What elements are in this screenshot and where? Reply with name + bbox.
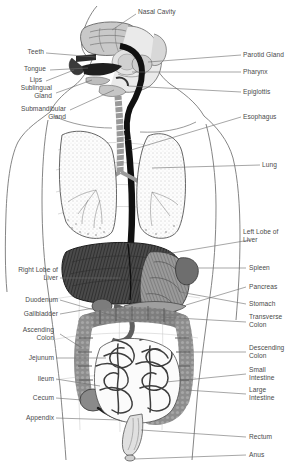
label-ileum: Ileum	[0, 375, 54, 383]
label-pharynx: Pharynx	[243, 68, 268, 76]
leader-sublingual-gland	[56, 80, 92, 93]
label-parotid-gland: Parotid Gland	[243, 51, 284, 59]
label-ascending-colon: Ascending Colon	[0, 326, 54, 341]
small-intestine-organ	[94, 338, 180, 423]
label-left-lobe-of-liver: Left Lobe of Liver	[243, 228, 278, 243]
spleen-organ	[176, 258, 199, 285]
leader-anus	[134, 455, 246, 459]
label-cecum: Cecum	[0, 394, 54, 402]
ascending-colon-organ	[82, 322, 87, 398]
label-lung: Lung	[262, 161, 277, 169]
label-pancreas: Pancreas	[249, 283, 277, 291]
label-teeth: Teeth	[0, 48, 44, 56]
label-large-intestine: Large Intestine	[249, 386, 274, 401]
label-sublingual-gland: Sublingual Gland	[0, 84, 52, 99]
label-stomach: Stomach	[249, 300, 275, 308]
label-epiglottis: Epiglottis	[243, 88, 270, 96]
leader-submandibular-gland	[70, 90, 114, 110]
leader-large-intestine	[186, 390, 246, 394]
label-transverse-colon: Transverse Colon	[249, 313, 282, 328]
leader-stomach	[180, 292, 246, 304]
label-descending-colon: Descending Colon	[249, 344, 284, 359]
label-small-intestine: Small Intestine	[249, 366, 274, 381]
label-esophagus: Esophagus	[243, 113, 276, 121]
label-rectum: Rectum	[249, 433, 272, 441]
label-gallbladder: Gallbladder	[0, 310, 58, 318]
teeth-organ	[76, 54, 96, 62]
label-jejunum: Jejunum	[0, 354, 54, 362]
label-right-lobe-of-liver: Right Lobe of Liver	[0, 266, 58, 281]
label-duodenum: Duodenum	[0, 296, 58, 304]
anus-organ	[125, 455, 135, 461]
digestive-system-diagram: Nasal Cavity Teeth Tongue Lips Sublingua…	[0, 0, 304, 467]
label-submandibular-gland: Submandibular Gland	[0, 105, 66, 120]
leader-appendix	[56, 418, 120, 420]
leader-cecum	[56, 398, 82, 400]
leader-left-lobe-of-liver	[166, 240, 250, 254]
label-tongue: Tongue	[0, 65, 46, 73]
label-appendix: Appendix	[0, 414, 54, 422]
label-spleen: Spleen	[249, 264, 270, 272]
label-anus: Anus	[249, 451, 264, 459]
descending-colon-organ	[182, 322, 187, 400]
label-lips: Lips	[0, 76, 42, 84]
leader-lips	[46, 70, 74, 81]
leader-rectum	[141, 430, 246, 437]
leader-esophagus	[131, 117, 241, 150]
label-nasal-cavity: Nasal Cavity	[138, 8, 176, 16]
